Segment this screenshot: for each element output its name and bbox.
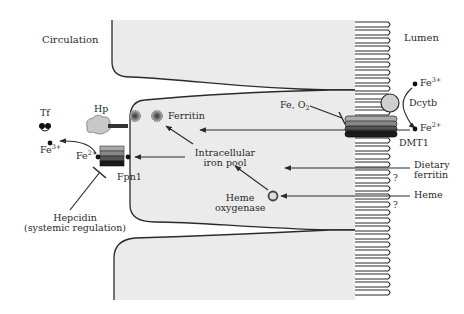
fe2-left-label: Fe2+ <box>76 151 97 161</box>
dietary-ferritin-label: Dietary ferritin <box>414 160 450 181</box>
fe3-dot-lumen <box>413 82 418 87</box>
fpn1-transporter <box>100 146 124 166</box>
hp-label: Hp <box>94 104 108 114</box>
heme-oxygenase-label: Heme oxygenase <box>215 193 265 214</box>
dcytb-label: Dcytb <box>409 98 437 108</box>
heme-oxygenase-icon <box>269 192 278 201</box>
fe2-right-label: Fe2+ <box>420 123 441 133</box>
ferritin-label: Ferritin <box>168 111 205 121</box>
upper-cell <box>112 20 355 90</box>
question-mark-2: ? <box>393 201 398 211</box>
fe-o2-label: Fe, O2 <box>280 100 310 110</box>
hepcidin-inhibition-line <box>70 172 100 210</box>
fe2-dot-intracellular <box>126 155 131 160</box>
fe3-left-label: Fe3+ <box>40 145 61 155</box>
hephaestin <box>87 115 128 134</box>
dmt1-label: DMT1 <box>399 138 429 148</box>
dmt1-transporter <box>345 116 397 137</box>
circulation-label: Circulation <box>42 34 99 45</box>
question-mark-1: ? <box>393 174 398 184</box>
fe3-right-label: Fe3+ <box>420 78 441 88</box>
ferritin-granule-2 <box>152 111 163 122</box>
brush-border-microvilli <box>355 22 390 295</box>
ferritin-granule-1 <box>130 111 141 122</box>
iron-absorption-diagram: Circulation Lumen Tf Hp Ferritin Fe3+ Fe… <box>0 0 464 314</box>
intracellular-iron-pool-label: Intracellular iron pool <box>185 148 265 169</box>
fpn1-label: Fpn1 <box>117 172 142 182</box>
lumen-label: Lumen <box>404 32 439 43</box>
transferrin <box>39 123 51 131</box>
hepcidin-label: Hepcidin (systemic regulation) <box>20 213 130 234</box>
lower-cell <box>114 230 355 300</box>
tf-label: Tf <box>40 108 50 118</box>
heme-label: Heme <box>414 190 443 200</box>
fe2-dot-lumen <box>413 127 418 132</box>
